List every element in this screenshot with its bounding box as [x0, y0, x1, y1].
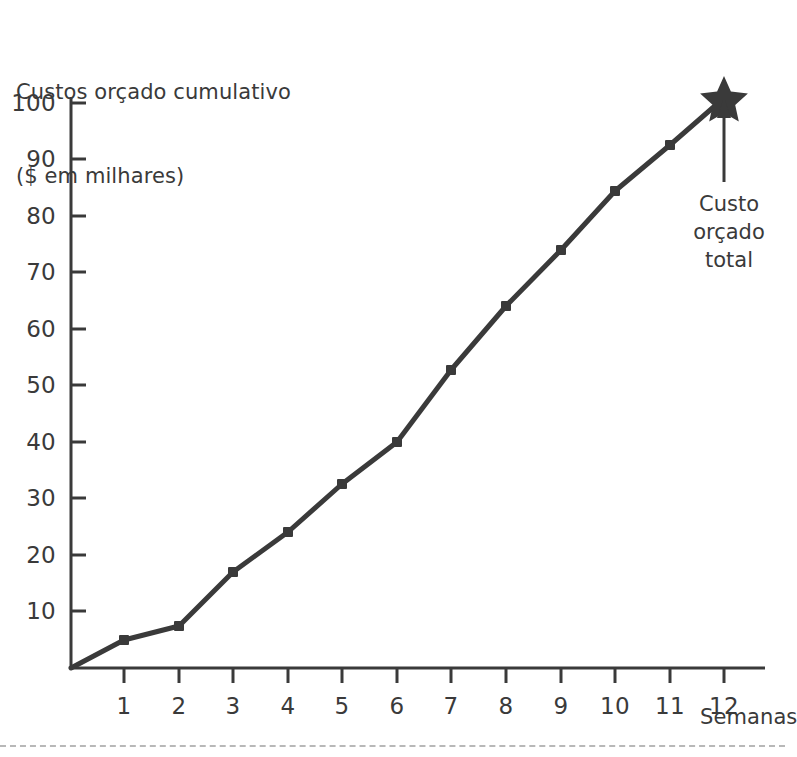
x-tick-label-5: 5 — [335, 695, 350, 718]
y-tick-label-80: 80 — [0, 205, 56, 228]
y-tick-label-90: 90 — [0, 148, 56, 171]
x-tick-label-3: 3 — [226, 695, 241, 718]
x-tick-label-8: 8 — [499, 695, 514, 718]
annotation-line-1: Custo — [673, 190, 785, 218]
annotation-line-2: orçado — [673, 218, 785, 246]
x-tick-label-11: 11 — [655, 695, 685, 718]
x-tick-label-10: 10 — [600, 695, 630, 718]
y-tick-label-40: 40 — [0, 431, 56, 454]
x-axis-title: Semanas — [700, 703, 797, 731]
y-tick-label-100: 100 — [0, 92, 56, 115]
y-tick-label-60: 60 — [0, 318, 56, 341]
x-tick-label-2: 2 — [172, 695, 187, 718]
y-tick-label-70: 70 — [0, 261, 56, 284]
bottom-divider — [0, 745, 785, 747]
annotation-line-3: total — [673, 246, 785, 274]
x-tick-label-7: 7 — [444, 695, 459, 718]
y-axis-ticks — [71, 103, 86, 611]
x-tick-label-6: 6 — [390, 695, 405, 718]
x-tick-label-4: 4 — [281, 695, 296, 718]
x-axis-ticks — [124, 668, 724, 683]
x-tick-label-1: 1 — [117, 695, 132, 718]
y-tick-label-50: 50 — [0, 374, 56, 397]
annotation-custo-orcado-total: Custo orçado total — [673, 190, 785, 274]
y-tick-label-30: 30 — [0, 487, 56, 510]
data-series-line — [71, 98, 724, 668]
y-tick-label-10: 10 — [0, 600, 56, 623]
x-tick-label-9: 9 — [554, 695, 569, 718]
y-tick-label-20: 20 — [0, 544, 56, 567]
